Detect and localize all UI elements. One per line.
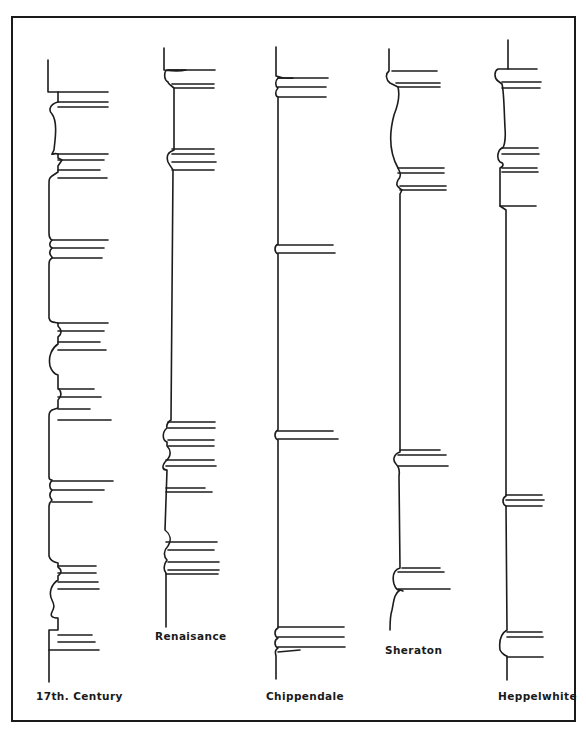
molding-line [400,590,403,591]
profile-renaissance [163,48,219,627]
profile-outline [163,48,186,627]
profile-hepplewhite [495,40,544,680]
leg-profile-diagram [0,0,586,743]
label-sheraton: Sheraton [385,644,442,656]
profile-chippendale [275,47,345,679]
label-chippendale: Chippendale [266,690,344,702]
profile-outline [386,49,402,630]
profile-17th-century [48,60,113,682]
label-renaissance: Renaisance [155,630,227,642]
profile-outline [495,40,508,680]
border-frame [12,17,575,721]
molding-line [278,650,300,652]
profile-sheraton [386,49,450,630]
label-hepplewhite: Heppelwhite [498,690,577,702]
profile-outline [275,47,293,679]
label-17th-century: 17th. Century [36,690,123,702]
